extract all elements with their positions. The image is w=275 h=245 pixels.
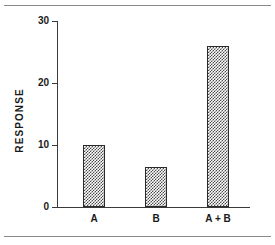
bar-slot [187,21,249,207]
y-axis-tick-label: 10 [0,140,49,150]
bar [145,167,167,207]
y-axis-tick [52,207,58,208]
figure-panel: RESPONSE 0102030 ABA + B [0,0,275,245]
y-axis-tick-label: 20 [0,78,49,88]
bar-slot [125,21,187,207]
x-axis-tick-label-text: A + B [187,213,249,225]
y-axis-tick-label-text: 30 [23,16,49,26]
y-axis-tick-label: 30 [0,16,49,26]
y-axis-tick-label: 0 [0,202,49,212]
x-axis-line [57,207,250,208]
y-axis-tick-label-text: 20 [23,78,49,88]
y-axis-tick-label-text: 0 [23,202,49,212]
bar-chart-plot: RESPONSE 0102030 ABA + B [0,0,275,245]
x-axis-tick-labels: ABA + B [57,213,250,227]
bar-series [57,21,250,207]
bar [207,46,229,207]
y-axis-tick-label-text: 10 [23,140,49,150]
x-axis-tick-label-text: B [125,213,187,225]
bar [83,145,105,207]
x-axis-tick-label-text: A [63,213,125,225]
bar-slot [63,21,125,207]
